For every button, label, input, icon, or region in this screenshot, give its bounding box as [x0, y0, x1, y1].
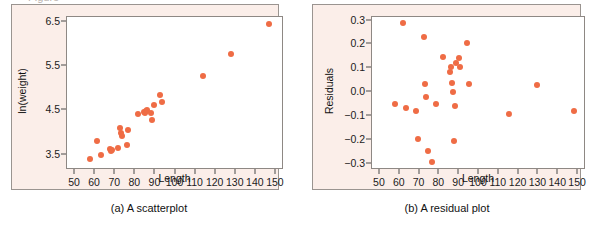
y-tick-mark	[366, 19, 371, 20]
data-point	[423, 94, 429, 100]
data-point	[534, 82, 540, 88]
y-tick-mark	[61, 21, 66, 22]
data-point	[415, 136, 421, 142]
data-point	[413, 108, 419, 114]
y-tick-mark	[366, 43, 371, 44]
data-point	[200, 73, 206, 79]
data-point	[149, 117, 155, 123]
figure-container: 3.54.55.56.5 506070809010011012013014015…	[0, 0, 597, 230]
data-point	[433, 101, 439, 107]
data-point	[421, 34, 427, 40]
panel-residual-plot: 0.30.20.10.0−0.1−0.2−0.3 506070809010011…	[298, 0, 596, 230]
data-point	[228, 51, 234, 57]
data-point	[571, 108, 577, 114]
data-point	[392, 101, 398, 107]
y-tick-label: 0.0	[337, 85, 365, 97]
data-point	[452, 103, 458, 109]
data-point	[124, 142, 130, 148]
panel-a-frame: 3.54.55.56.5 506070809010011012013014015…	[11, 4, 279, 190]
y-tick-label: 0.1	[337, 61, 365, 73]
data-point	[425, 148, 431, 154]
panel-b-frame: 0.30.20.10.0−0.1−0.2−0.3 506070809010011…	[312, 4, 581, 190]
y-tick-mark	[366, 67, 371, 68]
panel-a-plot-area	[66, 16, 283, 169]
panel-b-plot-area	[371, 16, 585, 169]
data-point	[422, 81, 428, 87]
data-point	[119, 133, 125, 139]
data-point	[464, 40, 470, 46]
panel-b-caption: (b) A residual plot	[298, 202, 596, 214]
y-tick-mark	[366, 139, 371, 140]
data-point	[98, 152, 104, 158]
data-point	[151, 102, 157, 108]
data-point	[451, 138, 457, 144]
panel-a-caption: (a) A scatterplot	[0, 202, 298, 214]
y-tick-mark	[366, 115, 371, 116]
y-tick-label: 0.3	[337, 14, 365, 26]
data-point	[125, 127, 131, 133]
y-tick-label: −0.3	[337, 157, 365, 169]
y-tick-label: 4.5	[32, 103, 60, 115]
y-tick-label: 5.5	[32, 59, 60, 71]
y-tick-label: 0.2	[337, 37, 365, 49]
y-tick-mark	[61, 153, 66, 154]
data-point	[115, 145, 121, 151]
data-point	[440, 54, 446, 60]
y-tick-label: 3.5	[32, 148, 60, 160]
data-point	[457, 64, 463, 70]
data-point	[159, 99, 165, 105]
data-point	[266, 21, 272, 27]
data-point	[403, 105, 409, 111]
y-tick-mark	[366, 91, 371, 92]
data-point	[87, 156, 93, 162]
data-point	[400, 20, 406, 26]
y-tick-mark	[366, 163, 371, 164]
data-point	[456, 55, 462, 61]
panel-b-x-axis-title: Length	[371, 172, 585, 184]
data-point	[157, 92, 163, 98]
panel-a-y-axis-title: ln(weight)	[16, 61, 28, 121]
y-tick-mark	[61, 65, 66, 66]
y-tick-mark	[61, 109, 66, 110]
panel-b-y-axis-title: Residuals	[323, 60, 335, 122]
data-point	[94, 138, 100, 144]
cropped-top-text: Figure	[0, 0, 597, 3]
y-tick-label: 6.5	[32, 15, 60, 27]
data-point	[506, 111, 512, 117]
data-point	[429, 159, 435, 165]
data-point	[450, 89, 456, 95]
data-point	[148, 110, 154, 116]
y-tick-label: −0.1	[337, 109, 365, 121]
data-point	[449, 80, 455, 86]
panel-scatterplot: 3.54.55.56.5 506070809010011012013014015…	[0, 0, 298, 230]
panel-a-x-axis-title: Length	[66, 172, 283, 184]
data-point	[466, 81, 472, 87]
y-tick-label: −0.2	[337, 133, 365, 145]
